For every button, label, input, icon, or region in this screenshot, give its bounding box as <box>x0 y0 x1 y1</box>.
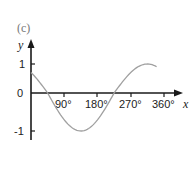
x-tick-label: 270° <box>119 98 142 110</box>
panel-label: (c) <box>17 21 30 35</box>
x-tick-label: 360° <box>152 98 175 110</box>
x-axis-arrow-icon <box>174 90 183 97</box>
x-axis-label: x <box>182 97 189 111</box>
y-tick-label: -1 <box>14 125 24 137</box>
y-axis-arrow-icon <box>28 39 35 48</box>
y-tick-label: 1 <box>19 58 25 70</box>
x-tick-label: 180° <box>85 98 108 110</box>
y-tick-label: 0 <box>17 87 23 99</box>
y-axis-label: y <box>17 38 24 52</box>
x-tick-label: 90° <box>55 98 72 110</box>
sine-graph: (c) y x 1 0 -1 90° 180° 270° 360° <box>0 0 193 182</box>
